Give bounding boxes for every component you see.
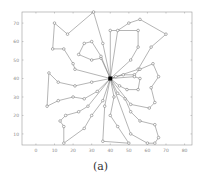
customer-node [133,75,136,78]
customer-node [48,72,51,75]
y-tick-label: 30 [13,95,19,100]
customer-node [139,77,142,80]
customer-node [59,120,62,123]
customer-node [92,11,95,14]
customer-node [165,33,168,36]
customer-node [129,103,132,106]
y-tick-label: 40 [13,76,19,81]
customer-node [129,59,132,62]
customer-node [64,114,67,117]
customer-node [122,74,125,77]
route-plot: 0102030405060708010203040506070 [0,0,201,185]
y-tick-label: 10 [13,132,19,137]
customer-node [118,85,121,88]
customer-node [137,88,140,91]
customer-node [157,136,160,139]
x-tick-label: 0 [34,148,37,153]
customer-node [129,110,132,113]
customer-node [116,29,119,32]
customer-node [116,125,119,128]
y-tick-label: 60 [13,39,19,44]
x-tick-label: 20 [70,148,76,153]
x-tick-label: 50 [126,148,132,153]
customer-node [150,86,153,89]
customer-node [100,55,103,58]
customer-node [146,142,149,145]
customer-node [83,42,86,45]
customer-node [115,75,118,78]
x-tick-label: 30 [89,148,95,153]
customer-node [63,48,66,51]
customer-node [83,127,86,130]
customer-node [96,90,99,93]
customer-node [63,125,66,128]
customer-node [137,29,140,32]
customer-node [83,98,86,101]
customer-node [139,68,142,71]
customer-node [72,96,75,99]
x-tick-label: 70 [163,148,169,153]
customer-node [77,53,80,56]
customer-node [102,140,105,143]
customer-node [152,62,155,65]
y-tick-label: 20 [13,113,19,118]
customer-node [90,114,93,117]
customer-node [139,18,142,21]
plot-frame [22,12,192,145]
customer-node [57,99,60,102]
customer-node [154,101,157,104]
depot-marker [108,77,112,81]
customer-node [103,105,106,108]
customer-node [63,142,66,145]
customer-node [148,107,151,110]
customer-node [154,142,157,145]
x-tick-label: 60 [145,148,151,153]
customer-node [139,120,142,123]
figure-caption: (a) [0,160,201,173]
customer-node [102,99,105,102]
y-tick-label: 50 [13,58,19,63]
customer-node [46,105,49,108]
customer-node [129,133,132,136]
customer-node [90,59,93,62]
customer-node [124,98,127,101]
customer-node [77,110,80,113]
customer-node [102,42,105,45]
customer-node [126,88,129,91]
customer-node [87,105,90,108]
customer-node [116,92,119,95]
x-tick-label: 40 [107,148,113,153]
customer-node [128,22,131,25]
customer-node [66,33,69,36]
customer-node [113,96,116,99]
customer-node [57,81,60,84]
customer-node [74,68,77,71]
customer-node [109,29,112,32]
customer-node [90,40,93,43]
x-tick-label: 10 [52,148,58,153]
x-tick-label: 80 [182,148,188,153]
customer-node [72,62,75,65]
customer-node [51,48,54,51]
customer-node [90,81,93,84]
customer-node [157,75,160,78]
customer-node [150,46,153,49]
customer-node [74,85,77,88]
customer-node [128,142,131,145]
customer-node [154,123,157,126]
y-tick-label: 70 [13,21,19,26]
customer-node [109,114,112,117]
customer-node [53,22,56,25]
customer-node [137,46,140,49]
